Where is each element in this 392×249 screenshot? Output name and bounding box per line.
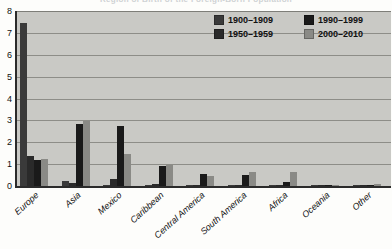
y-axis-tick: 1 xyxy=(7,160,12,169)
x-axis: EuropeAsiaMexicoCaribbeanCentral America… xyxy=(15,190,389,249)
y-axis-tick: 3 xyxy=(7,116,12,125)
page-title: Region of Birth of the Foreign-Born Popu… xyxy=(0,0,392,4)
legend-swatch-icon xyxy=(214,15,224,25)
bar xyxy=(318,185,325,186)
bar xyxy=(186,185,193,186)
bar xyxy=(152,184,159,186)
bar xyxy=(145,185,152,186)
y-axis-tick: 8 xyxy=(7,7,12,16)
bar xyxy=(325,185,332,186)
bar xyxy=(124,154,131,186)
x-axis-label: Mexico xyxy=(96,190,124,217)
bar xyxy=(353,185,360,186)
x-axis-label: Oceania xyxy=(300,190,332,220)
bar xyxy=(117,126,124,186)
x-axis-label: Other xyxy=(350,190,373,212)
bar xyxy=(276,185,283,186)
y-axis-tick: 4 xyxy=(7,94,12,103)
bar xyxy=(41,159,48,186)
legend-label: 1900–1909 xyxy=(228,15,273,25)
bar xyxy=(207,176,214,187)
bar xyxy=(249,172,256,186)
bar-group xyxy=(142,11,184,186)
chart-title-strip: Region of Birth of the Foreign-Born Popu… xyxy=(0,0,392,8)
legend-item[interactable]: 1900–1909 xyxy=(214,15,300,25)
bar-chart: 876543210 1900–19091990–19991950–1959200… xyxy=(0,8,392,249)
y-axis-tick: 0 xyxy=(7,182,12,191)
bar-group xyxy=(59,11,101,186)
y-axis-tick: 5 xyxy=(7,72,12,81)
bar xyxy=(166,165,173,186)
bar xyxy=(332,185,339,186)
bar xyxy=(290,172,297,186)
legend-label: 1990–1999 xyxy=(318,15,363,25)
legend-label: 1950–1959 xyxy=(228,29,273,39)
y-axis-tick: 6 xyxy=(7,50,12,59)
bar xyxy=(103,185,110,186)
bar xyxy=(283,182,290,186)
bar xyxy=(242,175,249,186)
bar xyxy=(20,23,27,186)
legend-swatch-icon xyxy=(214,29,224,39)
x-axis-label: Caribbean xyxy=(128,190,166,225)
legend-item[interactable]: 2000–2010 xyxy=(304,29,390,39)
bar-group xyxy=(100,11,142,186)
y-axis-tick: 2 xyxy=(7,138,12,147)
legend-swatch-icon xyxy=(304,15,314,25)
bar xyxy=(374,184,381,186)
bar xyxy=(110,179,117,186)
legend-item[interactable]: 1950–1959 xyxy=(214,29,300,39)
y-axis-tick: 7 xyxy=(7,28,12,37)
y-axis: 876543210 xyxy=(0,8,14,191)
bar xyxy=(367,185,374,186)
legend-swatch-icon xyxy=(304,29,314,39)
bar xyxy=(62,181,69,186)
bar xyxy=(76,124,83,186)
bar xyxy=(69,183,76,186)
bar xyxy=(200,174,207,186)
bar xyxy=(228,185,235,186)
bar-group xyxy=(17,11,59,186)
bar xyxy=(360,185,367,186)
bar xyxy=(83,121,90,186)
x-axis-label: Europe xyxy=(13,190,41,217)
bar xyxy=(159,166,166,186)
bar xyxy=(235,185,242,186)
bar xyxy=(27,156,34,186)
bar xyxy=(34,160,41,186)
bar xyxy=(193,185,200,186)
legend-label: 2000–2010 xyxy=(318,29,363,39)
legend: 1900–19091990–19991950–19592000–2010 xyxy=(210,13,390,41)
legend-item[interactable]: 1990–1999 xyxy=(304,15,390,25)
bar xyxy=(311,185,318,186)
bar xyxy=(269,185,276,186)
x-axis-label: Africa xyxy=(266,190,290,213)
x-axis-label: Asia xyxy=(63,190,83,209)
